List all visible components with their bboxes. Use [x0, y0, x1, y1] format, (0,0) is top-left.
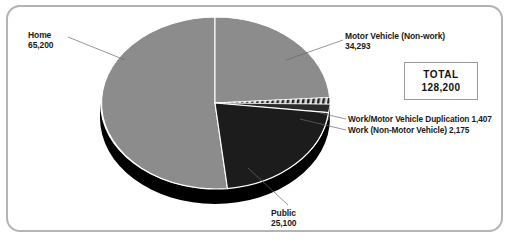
total-box-value: 128,200	[422, 81, 461, 95]
callout-label-home: Home 65,200	[28, 30, 53, 50]
callout-label-motor-vehicle-name: Motor Vehicle (Non-work)	[345, 31, 445, 41]
callout-label-motor-vehicle-value: 34,293	[345, 41, 445, 51]
callout-label-public: Public 25,100	[271, 208, 296, 228]
total-box-title: TOTAL	[423, 68, 458, 82]
pie-chart-stage: Home 65,200 Motor Vehicle (Non-work) 34,…	[0, 0, 514, 242]
total-box: TOTAL 128,200	[404, 62, 478, 100]
pie-slice-motor-vehicle[interactable]	[215, 17, 330, 103]
pie-slice-public[interactable]	[215, 103, 328, 189]
callout-label-duplication: Work/Motor Vehicle Duplication 1,407	[348, 115, 492, 125]
callout-label-work: Work (Non-Motor Vehicle) 2,175	[348, 126, 469, 136]
callout-label-public-name: Public	[271, 208, 296, 218]
callout-label-home-value: 65,200	[28, 40, 53, 50]
chart-page: Home 65,200 Motor Vehicle (Non-work) 34,…	[0, 0, 514, 242]
callout-label-home-name: Home	[28, 30, 53, 40]
pie-top-face	[102, 17, 330, 189]
callout-label-public-value: 25,100	[271, 218, 296, 228]
callout-label-motor-vehicle: Motor Vehicle (Non-work) 34,293	[345, 31, 445, 51]
leader-line-home	[68, 37, 125, 60]
